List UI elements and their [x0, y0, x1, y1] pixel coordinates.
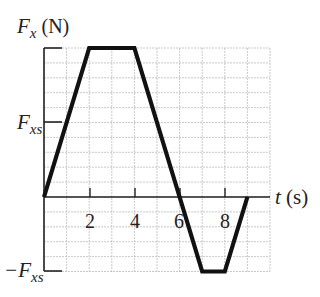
y-axis-label: Fx (N) — [16, 14, 69, 41]
x-tick-label-8: 8 — [220, 210, 230, 232]
x-tick-label-4: 4 — [130, 210, 140, 232]
x-tick-label-6: 6 — [174, 210, 184, 232]
x-tick-label-2: 2 — [85, 210, 95, 232]
fxs-label: Fxs — [16, 110, 42, 137]
x-axis-label: t (s) — [275, 185, 308, 209]
force-curve — [44, 48, 247, 272]
neg-fxs-label: −Fxs — [4, 258, 44, 285]
force-time-chart: Fx (N) Fxs −Fxs t (s) 2 4 6 8 — [0, 0, 320, 297]
